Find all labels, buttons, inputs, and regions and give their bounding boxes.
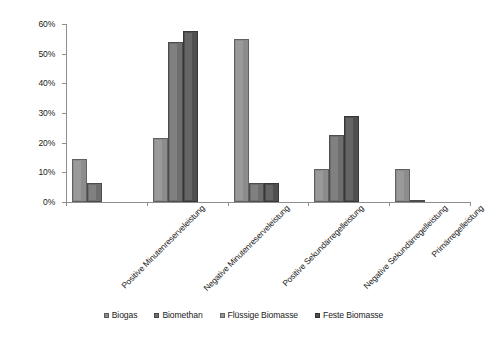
bar <box>249 183 264 202</box>
legend-swatch-icon <box>220 313 225 318</box>
y-axis-tick-label: 20% <box>39 138 55 148</box>
legend-swatch-icon <box>154 313 159 318</box>
y-axis-tick-label: 60% <box>39 19 55 29</box>
bar-group <box>228 24 309 202</box>
legend-swatch-icon <box>104 313 109 318</box>
chart-legend: BiogasBiomethanFlüssige BiomasseFeste Bi… <box>0 310 487 320</box>
legend-label: Biomethan <box>162 310 202 320</box>
x-axis-label: Positive Minutenreserveleistung <box>119 203 206 290</box>
bar <box>410 200 425 202</box>
y-axis-tick-label: 10% <box>39 167 55 177</box>
legend-swatch-icon <box>315 313 320 318</box>
bar-group <box>308 24 389 202</box>
legend-item: Biogas <box>104 310 138 320</box>
bar <box>168 42 183 202</box>
legend-item: Feste Biomasse <box>315 310 383 320</box>
legend-label: Flüssige Biomasse <box>228 310 298 320</box>
bar <box>395 169 410 202</box>
bars-layer <box>66 24 470 202</box>
x-axis-labels: Positive MinutenreserveleistungNegative … <box>66 203 470 303</box>
bar <box>234 39 249 202</box>
x-axis-tick <box>470 202 471 206</box>
plot-area: 0%10%20%30%40%50%60% <box>66 24 470 202</box>
bar <box>183 31 198 202</box>
legend-item: Flüssige Biomasse <box>220 310 298 320</box>
y-axis-tick-label: 0% <box>43 197 55 207</box>
bar <box>264 183 279 202</box>
legend-label: Feste Biomasse <box>323 310 383 320</box>
bar-chart: Anteilige präqualifizierte Anlagenleistu… <box>0 0 487 338</box>
bar <box>153 138 168 202</box>
bar <box>344 116 359 202</box>
x-axis-label: Negative Minutenreserveleistung <box>201 203 291 293</box>
legend-item: Biomethan <box>154 310 202 320</box>
y-axis-tick-label: 50% <box>39 49 55 59</box>
x-axis-label: Positive Sekundärregelleistung <box>280 203 365 288</box>
y-axis-tick-label: 30% <box>39 108 55 118</box>
legend-label: Biogas <box>112 310 138 320</box>
y-axis-tick-label: 40% <box>39 78 55 88</box>
bar <box>72 159 87 202</box>
bar-group <box>147 24 228 202</box>
bar <box>329 135 344 202</box>
bar <box>314 169 329 202</box>
bar-group <box>66 24 147 202</box>
bar <box>87 183 102 202</box>
bar-group <box>389 24 470 202</box>
